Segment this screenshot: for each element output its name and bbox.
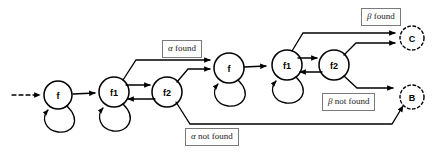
self-loop-f-mid: [215, 80, 246, 106]
alpha-not-found-text: not found: [196, 131, 233, 141]
diagram-canvas: f f1 f2 f f1 f2 C B α found β found β no…: [0, 0, 439, 154]
self-loop-f1-left: [100, 104, 131, 131]
node-label-terminal-B: B: [409, 93, 416, 103]
edge-label-beta-not-found: β not found: [322, 93, 375, 111]
edge-label-beta-found: β found: [361, 8, 401, 26]
edge-f2-left-to-f-mid: [177, 69, 210, 82]
node-label-f1-left: f1: [110, 88, 118, 98]
beta-found-text: found: [371, 11, 394, 21]
self-loop-f-start: [45, 106, 75, 132]
node-label-f1-right: f1: [283, 61, 291, 71]
beta-not-found-text: not found: [332, 96, 369, 106]
edge-f2-right-to-C: [344, 43, 395, 55]
alpha-found-text: found: [173, 43, 196, 53]
node-label-f2-left: f2: [163, 88, 171, 98]
self-loop-f1-right: [273, 77, 304, 103]
edge-label-alpha-not-found: α not found: [185, 128, 239, 146]
edge-f1-right-to-C: [292, 33, 395, 51]
node-label-f2-right: f2: [330, 61, 338, 71]
edge-f2-right-to-B: [344, 76, 393, 88]
edge-f-mid-to-f1-right: [244, 66, 266, 67]
edge-label-alpha-found: α found: [162, 40, 202, 58]
node-label-terminal-C: C: [409, 34, 416, 44]
edge-f-to-f1: [73, 93, 95, 94]
